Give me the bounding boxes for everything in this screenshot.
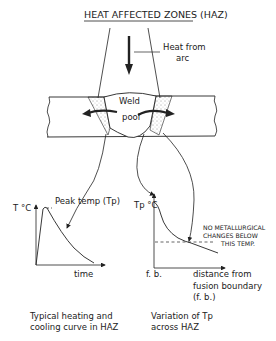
right-caption-1: Variation of Tp bbox=[151, 311, 213, 321]
right-y-axis-label: Tp °C bbox=[133, 200, 158, 210]
diagram-canvas: HEAT AFFECTED ZONES (HAZ) Heat from arc … bbox=[0, 0, 276, 341]
left-x-axis-label: time bbox=[74, 269, 93, 279]
leader-to-heating-curve bbox=[67, 134, 106, 228]
threshold-note-3: THIS TEMP. bbox=[220, 240, 255, 247]
right-x-axis-label-1: distance from bbox=[193, 269, 252, 279]
diagram-title: HEAT AFFECTED ZONES (HAZ) bbox=[84, 9, 228, 20]
weld-pool-label-2: pool bbox=[122, 112, 140, 122]
fusion-boundary-label: f. b. bbox=[146, 269, 162, 279]
heat-label-2: arc bbox=[176, 53, 190, 63]
arc-cone-right bbox=[148, 28, 160, 98]
heating-cooling-chart bbox=[36, 205, 105, 265]
right-x-axis-label-3: (f. b.) bbox=[193, 292, 216, 302]
heat-label-1: Heat from bbox=[163, 42, 206, 52]
leader-to-tp-axis bbox=[137, 134, 154, 195]
weld-pool-label-1: Weld bbox=[119, 96, 140, 106]
left-y-axis-label: T °C bbox=[12, 203, 31, 213]
haz-diagram: HEAT AFFECTED ZONES (HAZ) Heat from arc … bbox=[0, 0, 276, 341]
right-x-axis-label-2: fusion boundary bbox=[193, 281, 262, 291]
heating-cooling-curve bbox=[36, 207, 94, 265]
right-caption-2: across HAZ bbox=[151, 322, 199, 332]
leader-to-tp-threshold bbox=[163, 133, 194, 241]
arc-cone-left bbox=[98, 28, 110, 98]
threshold-note-1: NO METALLURGICAL bbox=[203, 224, 266, 231]
tp-variation-chart bbox=[154, 194, 225, 268]
threshold-note-2: CHANGES BELOW bbox=[203, 232, 258, 239]
left-caption-1: Typical heating and bbox=[29, 311, 113, 321]
heat-arrow-icon bbox=[125, 36, 133, 75]
left-caption-2: cooling curve in HAZ bbox=[30, 322, 118, 332]
peak-temp-label: Peak temp (Tp) bbox=[55, 196, 120, 206]
